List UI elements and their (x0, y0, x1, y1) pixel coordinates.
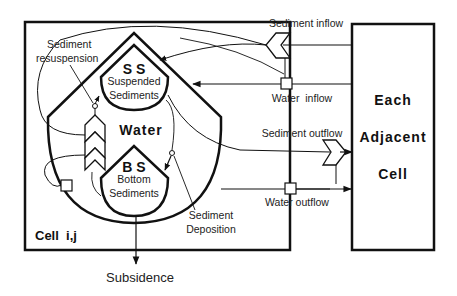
resuspension-control-node (93, 104, 98, 109)
sediment-diagram: Sediment resuspension S S Suspended Sedi… (0, 0, 457, 296)
left-water-valve-icon (61, 180, 72, 191)
water-outflow-label: Water outflow (265, 196, 329, 208)
subsidence-label: Subsidence (106, 270, 174, 285)
adjacent-label-1: Each (374, 92, 411, 108)
ss-label-1: Suspended (107, 75, 160, 87)
adjacent-label-2: Adjacent (359, 129, 426, 145)
ss-label-2: Sediments (109, 89, 159, 101)
sediment-outflow-label: Sediment outflow (262, 127, 343, 139)
cell-label: Cell i,j (35, 228, 77, 243)
resuspension-valve-icon (85, 115, 105, 170)
deposition-label-2: Deposition (186, 223, 236, 235)
resuspension-label-2: resuspension (36, 52, 99, 64)
adjacent-label-3: Cell (378, 166, 408, 182)
water-label: Water (119, 122, 162, 138)
water-outflow-valve-icon (285, 183, 296, 194)
resuspension-label-1: Sediment (47, 38, 91, 50)
water-inflow-valve-icon (281, 78, 292, 89)
bs-label-2: Sediments (109, 187, 159, 199)
sediment-inflow-label: Sediment inflow (269, 17, 344, 29)
deposition-label-1: Sediment (189, 209, 233, 221)
bs-label-1: Bottom (117, 173, 151, 185)
deposition-control-node (170, 151, 175, 156)
water-inflow-label: Water inflow (272, 92, 333, 104)
